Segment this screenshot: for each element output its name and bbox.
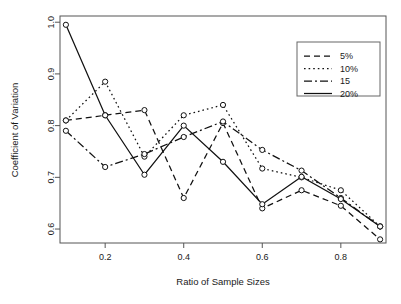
- y-tick-label: 0.8: [46, 119, 56, 132]
- data-point: [142, 108, 147, 113]
- data-point: [338, 203, 343, 208]
- data-point: [220, 119, 225, 124]
- data-point: [220, 159, 225, 164]
- data-point: [142, 172, 147, 177]
- data-point: [299, 188, 304, 193]
- legend-label-5pct: 5%: [340, 51, 353, 61]
- data-point: [181, 195, 186, 200]
- data-point: [63, 118, 68, 123]
- x-tick-label: 0.8: [335, 252, 348, 262]
- data-point: [181, 123, 186, 128]
- y-tick-label: 1.0: [46, 16, 56, 29]
- data-point: [63, 128, 68, 133]
- data-point: [103, 79, 108, 84]
- data-point: [103, 164, 108, 169]
- data-point: [378, 224, 383, 229]
- y-tick-label: 0.9: [46, 68, 56, 81]
- x-tick-label: 0.2: [99, 252, 112, 262]
- data-point: [181, 113, 186, 118]
- data-point: [220, 102, 225, 107]
- legend-label-15: 15: [340, 76, 350, 86]
- data-point: [63, 22, 68, 27]
- chart-legend: 5%10%1520%: [297, 42, 380, 99]
- data-point: [260, 202, 265, 207]
- y-axis-title: Coefficient of Variation: [9, 83, 20, 178]
- y-tick-label: 0.7: [46, 171, 56, 184]
- chart-container: 0.60.70.80.91.0 0.20.40.60.8 Ratio of Sa…: [0, 0, 401, 304]
- data-point: [260, 166, 265, 171]
- data-point: [181, 134, 186, 139]
- data-point: [142, 151, 147, 156]
- x-tick-label: 0.6: [256, 252, 269, 262]
- data-point: [338, 188, 343, 193]
- legend-label-20pct: 20%: [340, 89, 358, 99]
- data-point: [299, 168, 304, 173]
- line-chart: 0.60.70.80.91.0 0.20.40.60.8 Ratio of Sa…: [0, 0, 401, 304]
- data-point: [103, 113, 108, 118]
- x-axis-title: Ratio of Sample Sizes: [176, 276, 270, 287]
- data-point: [338, 196, 343, 201]
- data-point: [260, 147, 265, 152]
- x-tick-label: 0.4: [177, 252, 190, 262]
- y-tick-label: 0.6: [46, 223, 56, 236]
- data-point: [378, 237, 383, 242]
- legend-label-10pct: 10%: [340, 64, 358, 74]
- data-point: [299, 174, 304, 179]
